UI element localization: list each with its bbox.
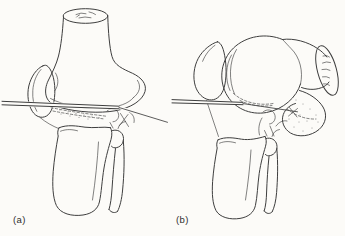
bone-section-scribble-a [76, 12, 96, 18]
transfixing-wire-b [172, 100, 298, 112]
joint-detail-b [259, 108, 298, 137]
tibia-b [212, 136, 266, 218]
tibia-a [53, 126, 112, 216]
femur-a [46, 9, 146, 113]
patella-a [28, 65, 59, 128]
figure-knee-wire-illustration: (a) (b) [0, 0, 345, 236]
panel-a-label: (a) [13, 214, 26, 225]
panel-a-knee-extended [2, 9, 168, 216]
patella-b [194, 42, 226, 137]
femur-b [222, 36, 343, 113]
panel-b-label: (b) [176, 214, 189, 225]
patellar-tendon-b [207, 101, 219, 137]
posterior-flap-b [282, 91, 325, 136]
illustration-canvas [0, 0, 345, 236]
bone-section-scribble-b [322, 55, 331, 85]
patellar-tendon-a [40, 118, 59, 129]
panel-b-knee-flexed [172, 36, 343, 219]
meniscus-dashed-band-a [51, 108, 106, 120]
